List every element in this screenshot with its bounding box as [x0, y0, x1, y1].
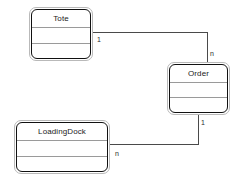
multiplicity-label-order-bottom-end: 1 [201, 119, 205, 126]
uml-class-order-operations [170, 98, 227, 112]
uml-class-loadingdock-name: LoadingDock [17, 123, 107, 141]
uml-class-loadingdock-operations [17, 157, 107, 172]
uml-class-loadingdock-attributes [17, 141, 107, 157]
association-tote-order [93, 32, 207, 62]
uml-class-order-attributes [170, 83, 227, 98]
uml-class-order-body: Order [169, 64, 228, 113]
uml-class-tote[interactable]: Tote [29, 7, 93, 61]
uml-class-loadingdock-body: LoadingDock [16, 122, 108, 172]
multiplicity-label-loadingdock-end: n [115, 150, 119, 157]
uml-class-tote-body: Tote [31, 9, 91, 59]
uml-class-tote-operations [32, 44, 90, 59]
diagram-canvas: Tote Order LoadingDock 1 n 1 n [0, 0, 248, 187]
uml-class-loadingdock[interactable]: LoadingDock [14, 120, 110, 174]
uml-class-order[interactable]: Order [167, 62, 230, 115]
multiplicity-label-order-top-end: n [210, 50, 214, 57]
uml-class-tote-name: Tote [32, 10, 90, 28]
multiplicity-label-tote-end: 1 [97, 36, 101, 43]
uml-class-order-name: Order [170, 65, 227, 83]
uml-class-tote-attributes [32, 28, 90, 44]
association-order-loadingdock [110, 115, 198, 144]
